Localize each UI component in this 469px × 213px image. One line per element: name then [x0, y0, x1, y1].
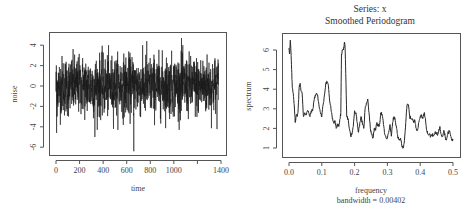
x-tick-label: 0.1	[317, 168, 327, 177]
periodogram-y-axis: 123456	[262, 48, 277, 150]
x-tick-label: 600	[121, 166, 133, 175]
noise-series-line	[56, 38, 219, 151]
spectrum-line	[289, 40, 453, 148]
x-tick-label: 0.3	[382, 168, 392, 177]
x-tick-label: 0	[54, 166, 58, 175]
y-tick-label: 0	[29, 84, 38, 88]
periodogram-x-label: frequency	[355, 186, 387, 195]
periodogram-panel: Series: x Smoothed Periodogram 0.00.10.2…	[244, 4, 461, 205]
x-tick-label: 800	[144, 166, 156, 175]
chart-canvas: 020040060080010001400 -6-4-2024 time noi…	[0, 0, 469, 213]
x-tick-label: 0.4	[415, 168, 425, 177]
periodogram-subtitle: Smoothed Periodogram	[325, 16, 416, 26]
periodogram-line-group	[289, 40, 453, 148]
y-tick-label: -2	[29, 103, 38, 110]
periodogram-bandwidth-note: bandwidth = 0.00402	[337, 196, 405, 205]
y-tick-label: 4	[29, 43, 38, 47]
x-tick-label: 0.5	[448, 168, 458, 177]
x-tick-label: 0.0	[284, 168, 294, 177]
x-tick-label: 1000	[166, 166, 182, 175]
y-tick-label: 4	[262, 87, 271, 91]
periodogram-frame	[283, 34, 461, 158]
y-tick-label: -6	[29, 144, 38, 151]
x-tick-label: 200	[74, 166, 86, 175]
y-tick-label: 5	[262, 68, 271, 72]
y-tick-label: 1	[262, 146, 271, 150]
y-tick-label: 2	[262, 126, 271, 130]
x-tick-label: 0.2	[350, 168, 360, 177]
time-series-line	[56, 38, 219, 151]
y-tick-label: -4	[29, 123, 38, 130]
periodogram-y-label: spectrum	[244, 81, 253, 111]
y-tick-label: 6	[262, 48, 271, 52]
y-tick-label: 2	[29, 64, 38, 68]
time-series-x-label: time	[131, 184, 146, 193]
x-tick-label: 1400	[213, 166, 229, 175]
x-tick-label: 400	[97, 166, 109, 175]
periodogram-title: Series: x	[354, 4, 387, 14]
time-series-x-axis: 020040060080010001400	[54, 161, 229, 176]
periodogram-x-axis: 0.00.10.20.30.40.5	[284, 163, 458, 178]
time-series-panel: 020040060080010001400 -6-4-2024 time noi…	[10, 33, 229, 194]
time-series-y-axis: -6-4-2024	[29, 43, 44, 150]
y-tick-label: 3	[262, 107, 271, 111]
time-series-y-label: noise	[10, 85, 19, 102]
